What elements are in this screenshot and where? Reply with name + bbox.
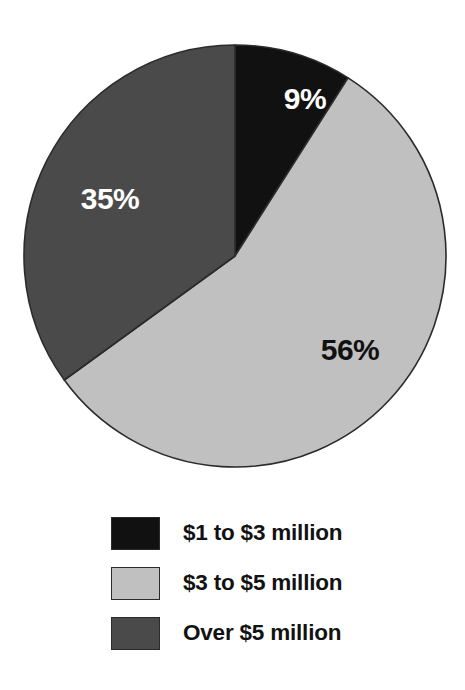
legend-swatch-icon <box>111 517 160 550</box>
pie-svg: 9%56%35% <box>0 0 465 500</box>
legend-item[interactable]: $3 to $5 million <box>111 558 441 608</box>
legend-item[interactable]: $1 to $3 million <box>111 508 441 558</box>
pie-slice-value-label: 56% <box>321 333 380 366</box>
legend-swatch-icon <box>111 567 160 600</box>
legend-item-label: Over $5 million <box>183 620 341 646</box>
pie-figure: 9%56%35% <box>0 0 465 500</box>
legend-item-label: $1 to $3 million <box>183 520 342 546</box>
pie-slice-group <box>24 45 446 467</box>
legend-swatch-icon <box>111 617 160 650</box>
legend-item-label: $3 to $5 million <box>183 570 342 596</box>
pie-slice-value-label: 9% <box>284 82 326 115</box>
pie-slice-value-label: 35% <box>81 182 140 215</box>
pie-chart: 9%56%35% $1 to $3 million$3 to $5 millio… <box>0 0 465 690</box>
legend-item[interactable]: Over $5 million <box>111 608 441 658</box>
legend: $1 to $3 million$3 to $5 millionOver $5 … <box>111 508 441 658</box>
